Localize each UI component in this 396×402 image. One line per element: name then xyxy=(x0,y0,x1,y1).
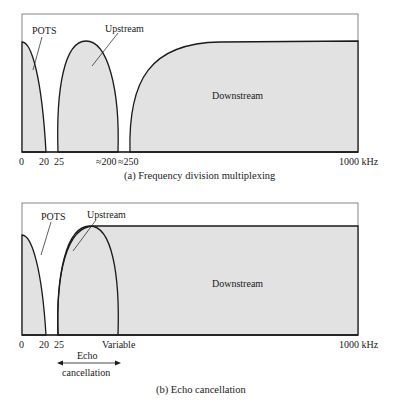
arrow-left-head-icon xyxy=(57,361,63,366)
panel-a-label-downstream: Downstream xyxy=(212,90,263,101)
panel-a-label-pots: POTS xyxy=(32,25,56,36)
panel-b-tick-1000: 1000 kHz xyxy=(339,339,378,350)
panel-a-pots-leader xyxy=(33,37,42,70)
panel-b-pots-leader xyxy=(41,222,51,255)
panel-b-caption: (b) Echo cancellation xyxy=(156,384,246,395)
panel-a-tick-20: 20 xyxy=(39,156,49,167)
panel-a-upstream-band xyxy=(58,41,119,152)
panel-b-tick-0: 0 xyxy=(19,339,24,350)
panel-a-graphics xyxy=(22,14,358,152)
panel-a-tick-200: ≈200 xyxy=(96,156,117,167)
panel-b-tick-variable: Variable xyxy=(102,339,135,350)
panel-b-label-downstream: Downstream xyxy=(212,278,263,289)
panel-a-tick-1000: 1000 kHz xyxy=(339,156,378,167)
echo-label-line2: cancellation xyxy=(62,367,110,378)
panel-b-downstream-band xyxy=(58,226,358,335)
panel-a-pots-band xyxy=(22,42,46,152)
echo-label-line1: Echo xyxy=(77,350,98,361)
panel-a-label-upstream: Upstream xyxy=(105,23,144,34)
panel-b-graphics xyxy=(22,203,358,366)
panel-b-tick-20: 20 xyxy=(39,339,49,350)
panel-b-tick-25: 25 xyxy=(54,339,64,350)
panel-a-tick-25: 25 xyxy=(54,156,64,167)
panel-b-label-pots: POTS xyxy=(41,211,65,222)
arrow-right-head-icon xyxy=(115,361,121,366)
panel-b-label-upstream: Upstream xyxy=(87,209,126,220)
panel-a-tick-0: 0 xyxy=(19,156,24,167)
panel-a-tick-250: ≈250 xyxy=(118,156,139,167)
panel-a-caption: (a) Frequency division multiplexing xyxy=(124,170,275,181)
